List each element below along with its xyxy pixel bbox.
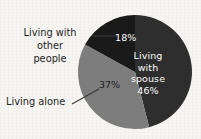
callout-label-living-with-other-people: Living with other people [11,26,89,65]
slice-label-line-3: spouse [131,73,165,85]
pie-chart-graphic [0,0,201,139]
slice-value-living-with-other-people: 18% [115,32,136,44]
slice-value-living-with-spouse: 46% [131,85,165,97]
callout-line-2: other [11,39,89,52]
callout-label-living-alone: Living alone [6,95,65,108]
slice-label-line-1: Living [131,50,165,62]
slice-label-living-with-spouse: Living with spouse 46% [131,50,165,96]
slice-label-line-2: with [131,62,165,74]
callout-line-1: Living with [11,26,89,39]
slice-value-living-alone: 37% [99,79,120,91]
callout-line-3: people [11,52,89,65]
pie-chart-figure: Living with spouse 46% 18% 37% Living wi… [0,0,201,139]
